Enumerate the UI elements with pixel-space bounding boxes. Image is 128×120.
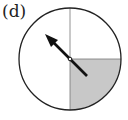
spinner-diagram — [0, 0, 128, 120]
spinner-pivot — [68, 57, 72, 61]
